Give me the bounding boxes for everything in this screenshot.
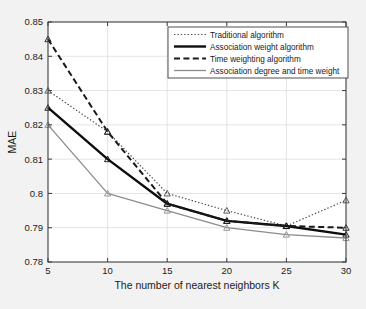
figure-canvas: 0.780.790.80.810.820.830.840.85510152025… (0, 0, 366, 309)
x-tick-label: 10 (102, 265, 113, 276)
x-tick-label: 20 (222, 265, 233, 276)
y-axis-title: MAE (6, 131, 18, 154)
x-tick-label: 15 (162, 265, 173, 276)
x-tick-label: 25 (281, 265, 292, 276)
y-tick-label: 0.78 (25, 256, 44, 267)
x-tick-label: 5 (45, 265, 50, 276)
y-tick-label: 0.81 (25, 154, 44, 165)
legend-label-0: Traditional algorithm (210, 31, 284, 40)
x-tick-label: 30 (341, 265, 352, 276)
legend-label-3: Association degree and time weight (210, 67, 340, 76)
legend-label-2: Time weighting algorithm (210, 55, 301, 64)
legend-label-1: Association weight algorithm (210, 43, 314, 52)
y-tick-label: 0.84 (25, 51, 44, 62)
x-axis-title: The number of nearest neighbors K (114, 279, 279, 291)
y-tick-label: 0.83 (25, 85, 44, 96)
chart-plot: 0.780.790.80.810.820.830.840.85510152025… (0, 0, 366, 309)
y-tick-label: 0.8 (30, 188, 43, 199)
y-tick-label: 0.85 (25, 16, 44, 27)
y-tick-label: 0.79 (25, 222, 44, 233)
y-tick-label: 0.82 (25, 119, 44, 130)
